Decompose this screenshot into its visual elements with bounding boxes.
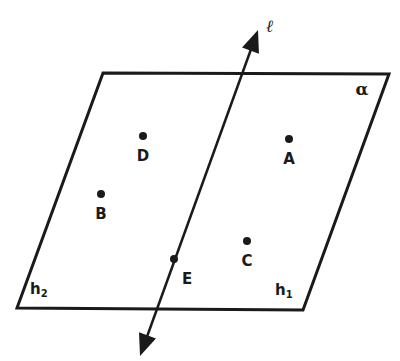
point-c-label: C: [241, 252, 252, 270]
point-d-dot: [139, 132, 147, 140]
points-group: ABCDE: [95, 132, 295, 288]
point-d-label: D: [137, 147, 149, 165]
point-a-dot: [285, 135, 293, 143]
point-c-dot: [243, 237, 251, 245]
point-e-dot: [170, 255, 178, 263]
half-plane-label-h2: h2: [30, 280, 48, 299]
line-l: [146, 47, 252, 340]
plane-label: α: [355, 79, 368, 99]
point-b-label: B: [95, 205, 106, 223]
point-a-label: A: [283, 150, 295, 168]
plane-alpha: [17, 73, 389, 310]
arrow-head-bottom-icon: [139, 332, 156, 356]
arrow-head-top-icon: [242, 30, 259, 54]
diagram-svg: α ℓ h2 h1 ABCDE: [0, 0, 400, 361]
line-label: ℓ: [266, 16, 273, 36]
point-b-dot: [97, 190, 105, 198]
half-plane-label-h1: h1: [275, 281, 293, 300]
diagram-canvas: α ℓ h2 h1 ABCDE: [0, 0, 400, 361]
point-e-label: E: [182, 270, 192, 288]
